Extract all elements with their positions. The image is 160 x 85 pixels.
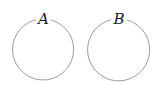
circle-b: B bbox=[88, 10, 150, 81]
circle-a-outline bbox=[13, 20, 74, 80]
circle-b-outline bbox=[88, 20, 150, 81]
label-b: B bbox=[112, 10, 124, 28]
circle-a: A bbox=[13, 10, 74, 80]
diagram-canvas: A B bbox=[0, 0, 160, 85]
label-a: A bbox=[36, 10, 49, 28]
